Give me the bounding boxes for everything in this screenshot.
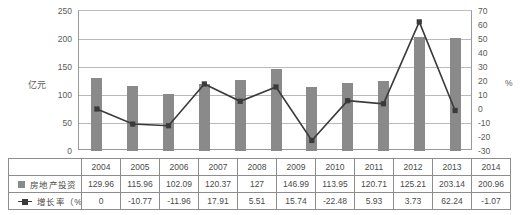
y-axis-left-title: 亿元: [28, 78, 46, 91]
table-cell-year-2006: 2006: [160, 159, 199, 176]
table-cell-investment-2007: 120.37: [199, 176, 238, 193]
table-cell-year-2008: 2008: [238, 159, 277, 176]
table-row-investment: 房地产投资 129.96115.96102.09120.37127146.991…: [9, 176, 511, 193]
table-cell-year-2011: 2011: [355, 159, 394, 176]
table-cell-growth-2006: -11.96: [160, 193, 199, 210]
growth-marker-2005: [130, 121, 135, 126]
table-row-growth: 增长率（%） 0-10.77-11.9617.915.5115.74-22.48…: [9, 193, 511, 210]
table-cell-investment-2009: 146.99: [277, 176, 316, 193]
table-cell-growth-2012: 3.73: [394, 193, 433, 210]
line-series-group: [79, 11, 473, 151]
legend-cell-growth: 增长率（%）: [9, 193, 82, 210]
growth-rate-line: [97, 22, 455, 141]
table-cell-year-2012: 2012: [394, 159, 433, 176]
y-axis-right-tick-neg10: -10: [478, 118, 504, 128]
table-cell-investment-2010: 113.95: [316, 176, 355, 193]
table-cell-growth-2004: 0: [82, 193, 121, 210]
y-axis-left-tick-150: 150: [46, 62, 72, 72]
growth-marker-2011: [345, 98, 350, 103]
table-cell-growth-2013: 62.24: [433, 193, 472, 210]
y-axis-right-tick-neg30: -30: [478, 146, 504, 156]
y-axis-left-tick-50: 50: [46, 118, 72, 128]
y-axis-right-tick-10: 10: [478, 90, 504, 100]
table-cell-year-2005: 2005: [121, 159, 160, 176]
table-cell-growth-2009: 15.74: [277, 193, 316, 210]
table-cell-growth-2010: -22.48: [316, 193, 355, 210]
table-corner-cell: [9, 159, 82, 176]
table-cell-year-2014: 2014: [472, 159, 511, 176]
plot-area: [78, 10, 472, 150]
table-cell-growth-2007: 17.91: [199, 193, 238, 210]
data-table-wrapper: 2004200520062007200820092010201120122013…: [8, 158, 516, 210]
growth-marker-2009: [273, 84, 278, 89]
line-square-marker-icon: [18, 198, 32, 205]
table-cell-growth-2008: 5.51: [238, 193, 277, 210]
growth-marker-2004: [94, 106, 99, 111]
growth-marker-2007: [202, 81, 207, 86]
table-cell-investment-2008: 127: [238, 176, 277, 193]
legend-label-growth: 增长率（%）: [37, 195, 82, 207]
table-cell-growth-2005: -10.77: [121, 193, 160, 210]
table-cell-year-2010: 2010: [316, 159, 355, 176]
table-row-years: 2004200520062007200820092010201120122013…: [9, 159, 511, 176]
y-axis-right-tick-neg20: -20: [478, 132, 504, 142]
table-cell-investment-2005: 115.96: [121, 176, 160, 193]
table-cell-year-2013: 2013: [433, 159, 472, 176]
y-axis-right-tick-70: 70: [478, 6, 504, 16]
growth-marker-2006: [166, 123, 171, 128]
data-table: 2004200520062007200820092010201120122013…: [8, 158, 511, 210]
y-axis-right-tick-30: 30: [478, 62, 504, 72]
table-cell-investment-2006: 102.09: [160, 176, 199, 193]
y-axis-right-tick-40: 40: [478, 48, 504, 58]
y-axis-left-tick-0: 0: [46, 146, 72, 156]
y-axis-left-tick-250: 250: [46, 6, 72, 16]
table-cell-investment-2014: 200.96: [472, 176, 511, 193]
table-cell-investment-2011: 120.71: [355, 176, 394, 193]
table-cell-growth-2014: -1.07: [472, 193, 511, 210]
y-axis-right-tick-20: 20: [478, 76, 504, 86]
y-axis-left-tick-200: 200: [46, 34, 72, 44]
y-axis-right-tick-0: 0: [478, 104, 504, 114]
table-cell-growth-2011: 5.93: [355, 193, 394, 210]
y-axis-right-tick-60: 60: [478, 20, 504, 30]
table-cell-investment-2013: 203.14: [433, 176, 472, 193]
legend-label-investment: 房地产投资: [30, 178, 77, 190]
growth-marker-2010: [309, 138, 314, 143]
legend-cell-investment: 房地产投资: [9, 176, 82, 193]
growth-marker-2012: [381, 101, 386, 106]
square-marker-icon: [18, 181, 25, 188]
table-cell-investment-2004: 129.96: [82, 176, 121, 193]
table-cell-year-2007: 2007: [199, 159, 238, 176]
table-cell-year-2004: 2004: [82, 159, 121, 176]
table-cell-year-2009: 2009: [277, 159, 316, 176]
table-cell-investment-2012: 125.21: [394, 176, 433, 193]
growth-marker-2013: [417, 19, 422, 24]
y-axis-right-title: %: [505, 78, 513, 88]
chart-plot-region: 250 200 150 100 50 0 亿元 70 60 50 40 30 2…: [0, 0, 524, 158]
growth-marker-2008: [238, 99, 243, 104]
growth-marker-2014: [452, 108, 457, 113]
chart-figure: 250 200 150 100 50 0 亿元 70 60 50 40 30 2…: [0, 0, 524, 215]
y-axis-right-tick-50: 50: [478, 34, 504, 44]
y-axis-left-tick-100: 100: [46, 90, 72, 100]
